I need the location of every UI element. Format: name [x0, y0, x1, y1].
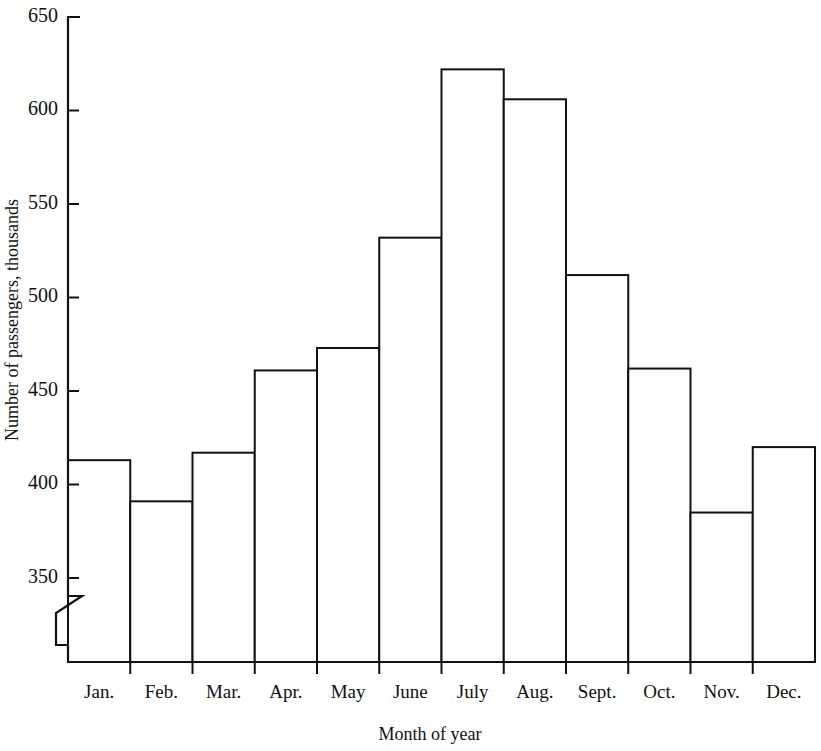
chart-container: 350400450500550600650 Jan.Feb.Mar.Apr.Ma… [0, 0, 821, 751]
bar-aug [504, 99, 566, 662]
bar-oct [628, 369, 690, 662]
x-tick-label-june: June [393, 681, 428, 702]
bar-july [442, 69, 504, 662]
y-tick-label-600: 600 [28, 97, 58, 119]
bar-may [317, 348, 379, 662]
x-ticks-group [130, 662, 753, 674]
bar-dec [753, 447, 815, 662]
x-axis-title: Month of year [379, 724, 482, 744]
bar-jan [68, 460, 130, 662]
bar-feb [130, 501, 192, 662]
bar-june [379, 238, 441, 662]
x-tick-label-dec: Dec. [766, 681, 801, 702]
x-tick-labels-group: Jan.Feb.Mar.Apr.MayJuneJulyAug.Sept.Oct.… [84, 681, 801, 702]
bar-sept [566, 275, 628, 662]
y-tick-labels-group: 350400450500550600650 [28, 4, 58, 587]
y-tick-label-550: 550 [28, 191, 58, 213]
y-tick-label-500: 500 [28, 284, 58, 306]
x-tick-label-sept: Sept. [578, 681, 617, 702]
x-tick-label-nov: Nov. [704, 681, 740, 702]
x-tick-label-mar: Mar. [206, 681, 241, 702]
y-tick-label-650: 650 [28, 4, 58, 26]
x-tick-label-apr: Apr. [269, 681, 302, 702]
x-tick-label-may: May [331, 681, 366, 702]
bar-apr [255, 370, 317, 662]
bar-chart: 350400450500550600650 Jan.Feb.Mar.Apr.Ma… [0, 0, 821, 751]
x-tick-label-jan: Jan. [84, 681, 114, 702]
bars-group [68, 69, 815, 662]
x-tick-label-july: July [457, 681, 489, 702]
y-tick-label-450: 450 [28, 378, 58, 400]
x-tick-label-feb: Feb. [145, 681, 178, 702]
bar-nov [691, 513, 753, 662]
y-axis-title: Number of passengers, thousands [2, 199, 22, 441]
bar-mar [193, 453, 255, 662]
y-tick-label-350: 350 [28, 565, 58, 587]
x-tick-label-aug: Aug. [516, 681, 553, 702]
y-tick-label-400: 400 [28, 471, 58, 493]
x-tick-label-oct: Oct. [643, 681, 675, 702]
